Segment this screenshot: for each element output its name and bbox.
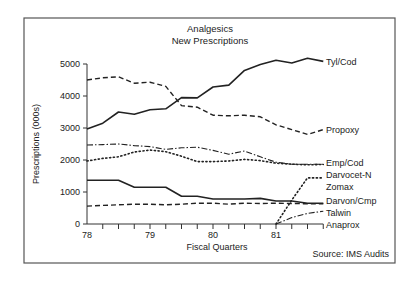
legend-label: Talwin — [326, 208, 351, 218]
legend-labels: Tyl/CodPropoxyEmp/CodDarvocet-NZomaxDarv… — [326, 57, 377, 230]
x-axis-label: Fiscal Quarters — [186, 242, 248, 252]
legend-label: Zomax — [326, 182, 354, 192]
legend-label: Emp/Cod — [326, 158, 364, 168]
x-tick-label: 81 — [271, 230, 281, 240]
axes: 01000200030004000500078798081 — [60, 59, 323, 240]
y-tick-label: 0 — [75, 219, 80, 229]
x-tick-label: 79 — [145, 230, 155, 240]
series-tyl-cod — [87, 58, 323, 129]
source-note: Source: IMS Audits — [312, 249, 389, 259]
y-tick-label: 2000 — [60, 155, 80, 165]
series-propoxy — [87, 77, 323, 135]
y-tick-label: 5000 — [60, 59, 80, 69]
y-tick-label: 1000 — [60, 187, 80, 197]
legend-label: Tyl/Cod — [326, 57, 357, 67]
y-tick-label: 4000 — [60, 91, 80, 101]
series-emp-cod — [87, 144, 323, 164]
series-layer — [87, 58, 323, 224]
series-darvon-cmp — [87, 180, 323, 203]
chart-title: Analgesics — [187, 23, 233, 34]
series-darvocet-n — [87, 150, 323, 165]
legend-label: Darvon/Cmp — [326, 196, 377, 206]
legend-label: Anaprox — [326, 220, 360, 230]
x-tick-label: 80 — [208, 230, 218, 240]
legend-label: Darvocet-N — [326, 170, 372, 180]
x-tick-label: 78 — [82, 230, 92, 240]
legend-label: Propoxy — [326, 125, 360, 135]
chart-subtitle: New Prescriptions — [172, 35, 249, 46]
y-tick-label: 3000 — [60, 123, 80, 133]
line-chart: Analgesics New Prescriptions Prescriptio… — [0, 0, 418, 285]
y-axis-label: Prescriptions (000s) — [31, 104, 41, 184]
